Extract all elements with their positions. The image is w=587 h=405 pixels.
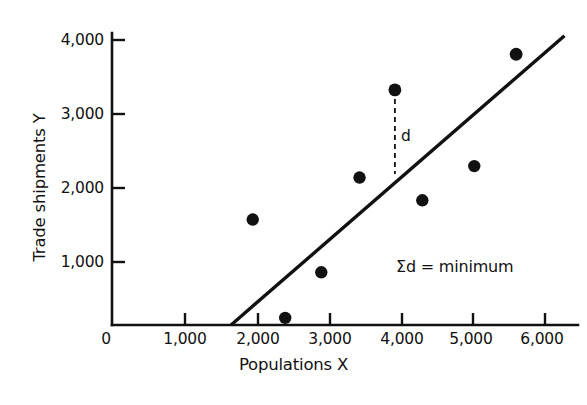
x-tick-label-2000: 2,000 [236,330,279,348]
data-point [388,83,401,96]
data-point [247,213,259,225]
data-point [353,171,365,183]
sum-d-annotation: Σd = minimum [396,257,513,276]
data-point [510,48,523,61]
data-point [279,312,291,324]
regression-line [231,36,564,325]
data-point [416,194,428,206]
x-tick-label-4000: 4,000 [380,330,423,348]
x-tick-label-3000: 3,000 [308,330,351,348]
plot-canvas [0,0,587,405]
y-axis-title: Trade shipments Y [30,73,49,303]
x-tick-label-5000: 5,000 [449,330,492,348]
y-tick-label-4000: 4,000 [20,31,104,49]
x-axis-title: Populations X [0,355,587,374]
data-point [315,266,327,278]
x-tick-label-6000: 6,000 [520,330,563,348]
data-point-group [247,48,523,324]
origin-label: 0 [101,330,111,348]
residual-label-d: d [401,127,411,145]
axis-lines [112,33,578,325]
y-axis-ticks [112,40,125,262]
scatter-plot-figure: 4,000 3,000 2,000 1,000 0 1,000 2,000 3,… [0,0,587,405]
data-point [468,160,480,172]
x-tick-label-1000: 1,000 [163,330,206,348]
